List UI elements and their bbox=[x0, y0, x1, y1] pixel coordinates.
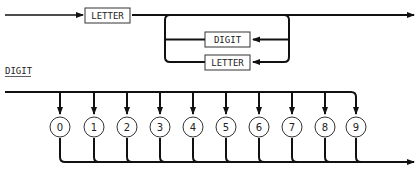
digit-diagram: DIGIT 0 1 2 bbox=[5, 66, 414, 162]
digit-bottom-rail bbox=[60, 138, 414, 162]
letter-start-label: LETTER bbox=[91, 11, 124, 21]
identifier-diagram: LETTER DIGIT LETTER bbox=[5, 8, 414, 70]
digit-node-1: 1 bbox=[84, 117, 104, 137]
svg-text:4: 4 bbox=[190, 122, 196, 133]
digit-node-4: 4 bbox=[183, 117, 203, 137]
digit-node-0: 0 bbox=[50, 117, 70, 137]
svg-text:5: 5 bbox=[223, 122, 229, 133]
loop-digit-label: DIGIT bbox=[214, 35, 242, 45]
digit-top-rail bbox=[5, 92, 356, 114]
loop-letter-label: LETTER bbox=[211, 58, 244, 68]
digit-node-5: 5 bbox=[216, 117, 236, 137]
loop-letter-box: LETTER bbox=[205, 55, 250, 70]
digit-node-8: 8 bbox=[315, 117, 335, 137]
svg-text:0: 0 bbox=[57, 122, 63, 133]
svg-text:2: 2 bbox=[124, 122, 130, 133]
digit-diagram-title: DIGIT bbox=[5, 66, 33, 76]
svg-text:9: 9 bbox=[353, 122, 359, 133]
digit-node-3: 3 bbox=[150, 117, 170, 137]
svg-text:3: 3 bbox=[157, 122, 163, 133]
loop-digit-box: DIGIT bbox=[205, 32, 250, 47]
digit-node-2: 2 bbox=[117, 117, 137, 137]
svg-text:7: 7 bbox=[289, 122, 295, 133]
digit-node-6: 6 bbox=[249, 117, 269, 137]
svg-text:6: 6 bbox=[256, 122, 262, 133]
svg-text:1: 1 bbox=[91, 122, 97, 133]
digit-node-9: 9 bbox=[346, 117, 366, 137]
svg-text:8: 8 bbox=[322, 122, 328, 133]
letter-start-box: LETTER bbox=[85, 8, 130, 23]
syntax-diagram: LETTER DIGIT LETTER DIGIT bbox=[0, 0, 420, 175]
digit-node-7: 7 bbox=[282, 117, 302, 137]
